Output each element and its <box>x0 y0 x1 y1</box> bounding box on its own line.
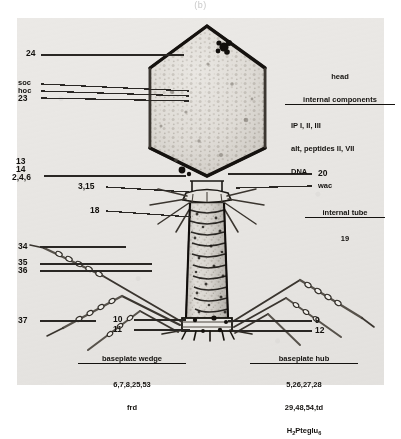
label-wac-246: 2,4,6 <box>12 173 31 182</box>
head-component-alt-peptides: alt, peptides II, VII <box>285 145 395 153</box>
baseplate-hub-block: baseplate hub 5,26,27,28 29,48,54,td H2P… <box>250 340 358 439</box>
baseplate <box>182 315 234 341</box>
cofactor-pteglu: Pteglu <box>295 426 318 435</box>
head-block-title: head <box>285 73 395 81</box>
label-gp9: 9 <box>315 316 320 325</box>
baseplate-wedge-title: baseplate wedge <box>78 355 186 364</box>
baseplate-wedge-frd: frd <box>78 404 186 412</box>
label-gp10: 10 <box>113 315 122 324</box>
head-components-block: head internal components IP I, II, III a… <box>285 58 395 191</box>
baseplate-wedge-block: baseplate wedge 6,7,8,25,53 frd <box>78 340 186 427</box>
label-gp19: 19 <box>305 235 385 243</box>
label-gp34: 34 <box>18 242 27 251</box>
long-tail-fibers-left <box>30 245 182 350</box>
label-gp3-15: 3,15 <box>78 182 95 191</box>
internal-tube-title: internal tube <box>305 209 385 218</box>
label-gp37: 37 <box>18 316 27 325</box>
label-gp36: 36 <box>18 266 27 275</box>
baseplate-wedge-genes: 6,7,8,25,53 <box>78 381 186 389</box>
cofactor-sub-6: 6 <box>318 430 321 436</box>
baseplate-hub-genes-1: 5,26,27,28 <box>250 381 358 389</box>
baseplate-hub-cofactor: H2Pteglu6 <box>250 427 358 435</box>
tail-sheath <box>186 203 228 318</box>
label-gp11: 11 <box>113 325 122 334</box>
label-gp23: 23 <box>18 94 27 103</box>
baseplate-hub-genes-2: 29,48,54,td <box>250 404 358 412</box>
internal-tube-block: internal tube 19 <box>305 194 385 258</box>
head-block-subtitle: internal components <box>285 96 395 105</box>
head-component-dna: DNA <box>285 168 395 176</box>
label-gp18: 18 <box>90 206 99 215</box>
cofactor-sub-2: 2 <box>292 430 295 436</box>
label-gp24: 24 <box>26 49 35 58</box>
baseplate-hub-title: baseplate hub <box>250 355 358 364</box>
neck-collar <box>183 181 231 204</box>
long-tail-fibers-right <box>232 280 374 345</box>
head-component-ip: IP I, II, III <box>285 122 395 130</box>
label-gp12: 12 <box>315 326 324 335</box>
